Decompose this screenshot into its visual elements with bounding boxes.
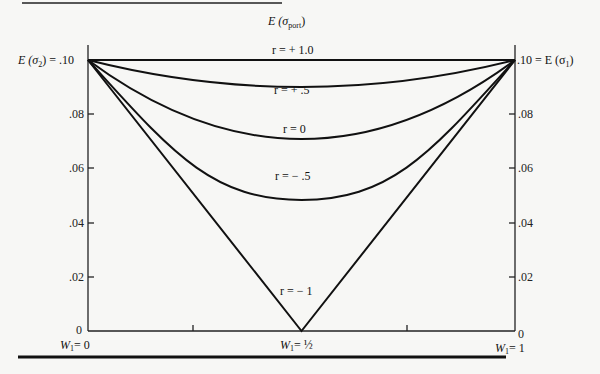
y-left-tick-06: .06 bbox=[69, 161, 84, 175]
annotation-r-plus-1: r = + 1.0 bbox=[272, 43, 314, 57]
y-left-tick-04: .04 bbox=[69, 216, 84, 230]
x-label-0: W1= 0 bbox=[60, 338, 90, 353]
left-top-label: E (σ2) = .10 bbox=[17, 53, 74, 69]
y-right-tick-02: .02 bbox=[518, 270, 533, 284]
y-left-tick-0: 0 bbox=[76, 323, 82, 337]
annotation-r-plus-half: r = + .5 bbox=[274, 83, 310, 97]
right-y-ticks bbox=[509, 114, 515, 277]
portfolio-risk-chart: E (σport) E (σ2) = .10 .10 = E (σ1) .08 … bbox=[0, 0, 600, 374]
right-top-label: .10 = E (σ1) bbox=[517, 53, 574, 69]
annotation-r-minus-half: r = − .5 bbox=[275, 169, 311, 183]
y-right-tick-04: .04 bbox=[518, 216, 533, 230]
y-left-tick-08: .08 bbox=[69, 107, 84, 121]
chart-title: E (σport) bbox=[267, 14, 305, 30]
left-y-ticks bbox=[88, 114, 94, 277]
annotation-r-minus-1: r = − 1 bbox=[280, 284, 313, 298]
y-right-tick-08: .08 bbox=[518, 107, 533, 121]
annotation-r-zero: r = 0 bbox=[283, 122, 306, 136]
y-right-tick-06: .06 bbox=[518, 161, 533, 175]
y-right-tick-0: 0 bbox=[518, 327, 524, 341]
x-label-1: W1= 1 bbox=[495, 341, 525, 356]
y-left-tick-02: .02 bbox=[69, 270, 84, 284]
x-label-half: W1= ½ bbox=[280, 338, 313, 353]
